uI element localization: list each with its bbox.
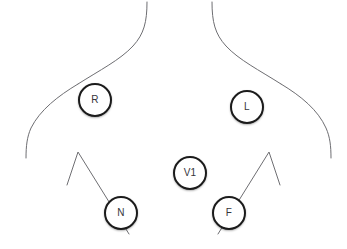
electrode-l[interactable]: L (230, 90, 264, 124)
electrode-r[interactable]: R (78, 83, 112, 117)
ecg-electrode-placement-diagram: R L V1 N F (0, 0, 347, 249)
neck-left-outline (78, 2, 147, 84)
electrode-f-label: F (226, 208, 232, 218)
electrode-n[interactable]: N (104, 196, 138, 230)
electrode-r-label: R (91, 95, 98, 105)
neck-right-outline (212, 2, 281, 84)
electrode-n-label: N (117, 208, 124, 218)
electrode-v1-label: V1 (184, 168, 197, 178)
electrode-f[interactable]: F (212, 196, 246, 230)
electrode-l-label: L (244, 102, 250, 112)
shoulder-left-outline (26, 84, 78, 158)
electrode-v1[interactable]: V1 (173, 156, 207, 190)
torso-outline (0, 0, 347, 249)
shoulder-right-outline (281, 84, 331, 158)
